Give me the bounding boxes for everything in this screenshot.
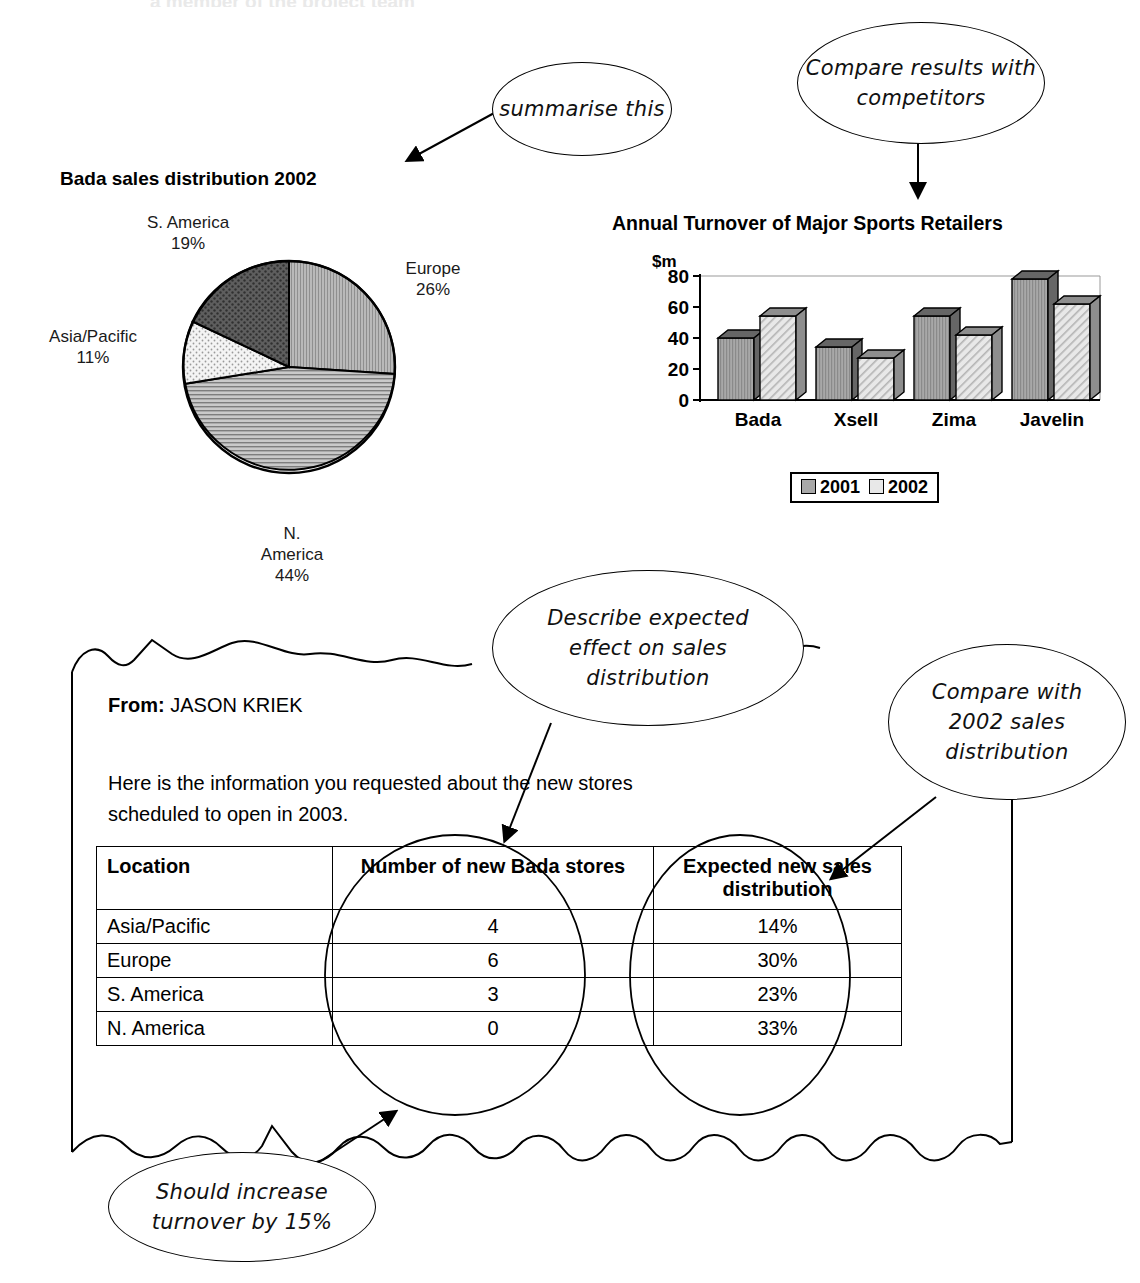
table-row: Europe 6 30% <box>97 944 902 978</box>
cell-stores: 3 <box>333 978 654 1012</box>
table-header-expected-distribution: Expected new sales distribution <box>654 847 902 910</box>
cell-distribution: 30% <box>654 944 902 978</box>
svg-text:Javelin: Javelin <box>1020 409 1084 430</box>
svg-text:Bada: Bada <box>735 409 782 430</box>
svg-text:20: 20 <box>668 359 689 380</box>
svg-text:0: 0 <box>678 390 689 411</box>
pie-label-asia-pacific: Asia/Pacific 11% <box>28 326 158 368</box>
cell-distribution: 33% <box>654 1012 902 1046</box>
memo-from-line: From: JASON KRIEK <box>108 694 303 717</box>
callout-compare-competitors-text: Compare results with competitors <box>798 53 1044 113</box>
pie-label-n-america-value: 44% <box>212 565 372 586</box>
pie-chart-title: Bada sales distribution 2002 <box>60 168 317 190</box>
memo-from-label: From: <box>108 694 165 716</box>
pie-label-asia-pacific-value: 11% <box>28 347 158 368</box>
pie-label-s-america-name: S. America <box>118 212 258 233</box>
svg-text:Zima: Zima <box>932 409 977 430</box>
svg-text:Xsell: Xsell <box>834 409 878 430</box>
pie-label-s-america-value: 19% <box>118 233 258 254</box>
bar-chart-legend: 2001 2002 <box>790 472 939 503</box>
cell-distribution: 23% <box>654 978 902 1012</box>
svg-text:60: 60 <box>668 297 689 318</box>
bar-chart-title: Annual Turnover of Major Sports Retailer… <box>612 212 1003 235</box>
bar-chart: 0 20 40 60 80 Bada Xsell <box>648 248 1118 448</box>
callout-describe-effect: Describe expected effect on sales distri… <box>492 570 804 726</box>
cut-off-heading: a member of the project team <box>150 0 990 7</box>
pie-chart <box>180 258 398 476</box>
new-stores-table: Location Number of new Bada stores Expec… <box>96 846 902 1046</box>
table-row: Asia/Pacific 4 14% <box>97 910 902 944</box>
memo-body-text: Here is the information you requested ab… <box>108 768 728 830</box>
legend-label-2002: 2002 <box>888 477 928 497</box>
cell-stores: 4 <box>333 910 654 944</box>
legend-label-2001: 2001 <box>820 477 860 497</box>
table-header-location: Location <box>97 847 333 910</box>
callout-compare-2002: Compare with 2002 sales distribution <box>888 644 1126 800</box>
callout-summarise-this: summarise this <box>492 62 672 156</box>
cell-stores: 0 <box>333 1012 654 1046</box>
table-header-number-of-stores: Number of new Bada stores <box>333 847 654 910</box>
cell-location: Asia/Pacific <box>97 910 333 944</box>
table-header-row: Location Number of new Bada stores Expec… <box>97 847 902 910</box>
table-row: N. America 0 33% <box>97 1012 902 1046</box>
callout-compare-competitors: Compare results with competitors <box>797 22 1045 144</box>
pie-label-n-america-name1: N. <box>212 523 372 544</box>
cell-distribution: 14% <box>654 910 902 944</box>
cell-location: S. America <box>97 978 333 1012</box>
callout-compare-2002-text: Compare with 2002 sales distribution <box>927 677 1087 767</box>
legend-swatch-2002 <box>869 479 884 494</box>
table-row: S. America 3 23% <box>97 978 902 1012</box>
pie-label-n-america-name2: America <box>212 544 372 565</box>
memo-from-value: JASON KRIEK <box>170 694 302 716</box>
legend-item-2002: 2002 <box>869 477 928 498</box>
callout-summarise-this-text: summarise this <box>499 94 665 124</box>
callout-increase-turnover: Should increase turnover by 15% <box>108 1152 376 1262</box>
pie-label-asia-pacific-name: Asia/Pacific <box>28 326 158 347</box>
svg-text:80: 80 <box>668 266 689 287</box>
pie-label-n-america: N. America 44% <box>212 523 372 586</box>
legend-swatch-2001 <box>801 479 816 494</box>
cell-stores: 6 <box>333 944 654 978</box>
pie-label-s-america: S. America 19% <box>118 212 258 254</box>
cell-location: N. America <box>97 1012 333 1046</box>
callout-increase-turnover-text: Should increase turnover by 15% <box>140 1177 344 1237</box>
callout-describe-effect-text: Describe expected effect on sales distri… <box>539 603 757 693</box>
legend-item-2001: 2001 <box>801 477 860 498</box>
cell-location: Europe <box>97 944 333 978</box>
svg-text:40: 40 <box>668 328 689 349</box>
